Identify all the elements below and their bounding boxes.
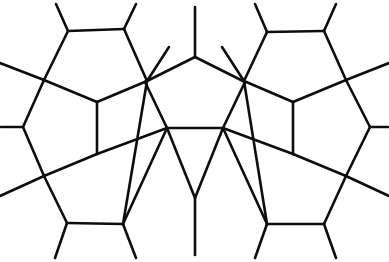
pentagon-tiling-figure: [0, 0, 389, 262]
pentagon-edge: [267, 31, 324, 32]
tiling-canvas: [0, 0, 389, 262]
pentagon-edge: [67, 223, 123, 224]
